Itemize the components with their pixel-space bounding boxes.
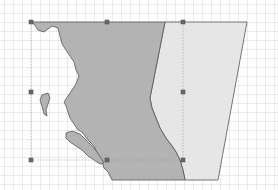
handle-top-right[interactable] [181, 20, 185, 24]
small-island-shape[interactable] [40, 93, 50, 116]
map-canvas[interactable]: Mainland region Adjacent region [0, 0, 278, 190]
handle-top-left[interactable] [29, 20, 33, 24]
handle-middle-right[interactable] [181, 90, 185, 94]
handle-bottom-left[interactable] [29, 158, 33, 162]
handle-top-center[interactable] [105, 20, 109, 24]
handle-bottom-center[interactable] [105, 158, 109, 162]
map-svg [0, 0, 278, 190]
handle-bottom-right[interactable] [181, 158, 185, 162]
handle-middle-left[interactable] [29, 90, 33, 94]
